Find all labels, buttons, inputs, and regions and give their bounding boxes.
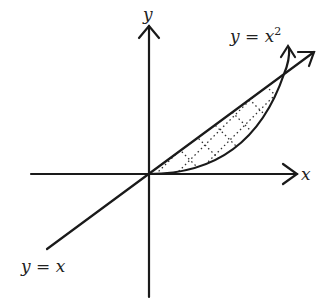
diagram-canvas: y x y = x2 y = x <box>0 0 336 303</box>
y-axis-label: y <box>143 6 153 23</box>
line-label: y = x <box>21 258 65 275</box>
y-axis <box>139 26 159 297</box>
parabola-label-base: y = x <box>230 26 274 46</box>
parabola-label-exponent: 2 <box>274 25 281 38</box>
x-axis-label: x <box>301 166 311 183</box>
shaded-region <box>110 60 330 210</box>
parabola-label: y = x2 <box>230 26 281 45</box>
parabola-y-equals-x-squared <box>149 46 295 174</box>
line-y-equals-x <box>47 52 314 249</box>
